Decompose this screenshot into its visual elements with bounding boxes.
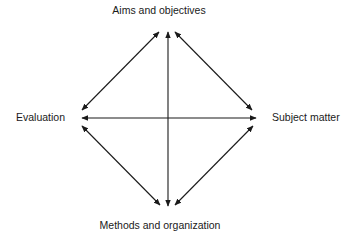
arrow-subject-methods <box>175 126 253 205</box>
arrow-evaluation-methods <box>82 126 160 205</box>
arrow-aims-evaluation <box>82 32 159 110</box>
arrow-aims-subject <box>175 32 252 110</box>
diagram-arrows <box>0 0 354 237</box>
